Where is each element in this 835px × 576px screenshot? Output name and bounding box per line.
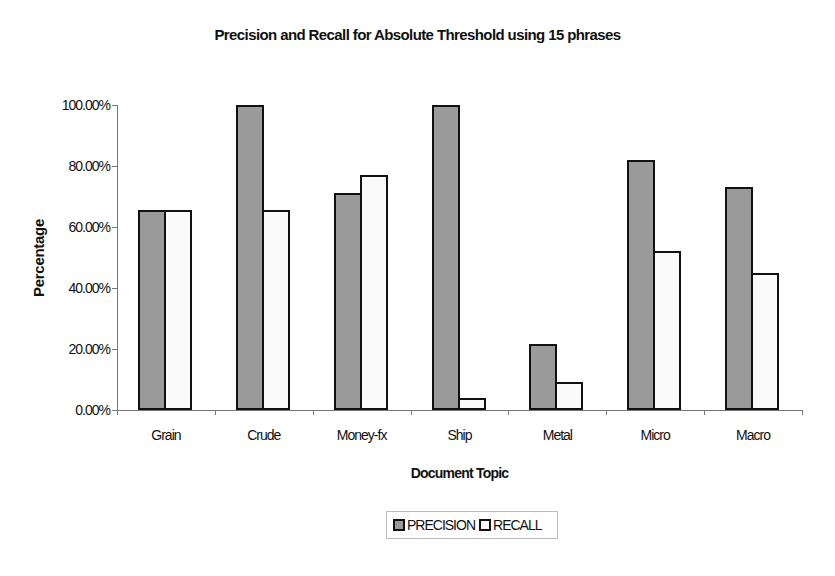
x-tick: [802, 410, 803, 415]
bar-precision-money-fx: [334, 193, 362, 410]
y-tick-label: 0.00%: [75, 402, 110, 418]
y-tick: [112, 105, 117, 106]
bar-precision-grain: [138, 210, 166, 410]
y-tick-label: 80.00%: [69, 158, 110, 174]
x-tick: [313, 410, 314, 415]
bar-precision-ship: [432, 105, 460, 410]
x-tick: [508, 410, 509, 415]
x-tick: [215, 410, 216, 415]
legend-item-precision: PRECISION: [393, 517, 475, 533]
bar-precision-micro: [627, 160, 655, 410]
x-tick: [704, 410, 705, 415]
chart-title: Precision and Recall for Absolute Thresh…: [0, 26, 835, 43]
x-axis-line: [117, 410, 802, 411]
y-tick: [112, 288, 117, 289]
y-tick-label: 100.00%: [62, 97, 110, 113]
y-tick: [112, 227, 117, 228]
bar-recall-metal: [555, 382, 583, 410]
legend-swatch-precision: [393, 519, 405, 531]
x-tick: [117, 410, 118, 415]
x-category-label: Macro: [704, 427, 802, 443]
bar-precision-macro: [725, 187, 753, 410]
x-category-label: Crude: [215, 427, 313, 443]
x-axis-label: Document Topic: [117, 465, 802, 481]
y-tick: [112, 166, 117, 167]
legend-swatch-recall: [479, 519, 491, 531]
plot-area: 0.00%20.00%40.00%60.00%80.00%100.00%Grai…: [117, 105, 802, 410]
legend-label-recall: RECALL: [493, 517, 541, 533]
x-category-label: Micro: [606, 427, 704, 443]
bar-precision-crude: [236, 105, 264, 410]
legend-item-recall: RECALL: [479, 517, 541, 533]
legend-label-precision: PRECISION: [407, 517, 475, 533]
legend: PRECISION RECALL: [386, 511, 558, 539]
bar-recall-money-fx: [360, 175, 388, 410]
y-tick-label: 40.00%: [69, 280, 110, 296]
bar-recall-macro: [751, 273, 779, 410]
y-axis-label: Percentage: [30, 219, 47, 297]
y-tick-label: 60.00%: [69, 219, 110, 235]
bar-recall-crude: [262, 210, 290, 410]
bar-recall-grain: [164, 210, 192, 410]
y-axis-line: [117, 105, 118, 410]
bar-recall-micro: [653, 251, 681, 410]
x-category-label: Grain: [117, 427, 215, 443]
x-category-label: Metal: [508, 427, 606, 443]
bar-recall-ship: [458, 398, 486, 410]
x-tick: [411, 410, 412, 415]
y-tick: [112, 349, 117, 350]
x-category-label: Money-fx: [313, 427, 411, 443]
x-tick: [606, 410, 607, 415]
x-category-label: Ship: [411, 427, 509, 443]
y-tick-label: 20.00%: [69, 341, 110, 357]
bar-precision-metal: [529, 344, 557, 410]
